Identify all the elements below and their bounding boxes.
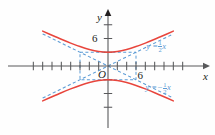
x-axis-label: x xyxy=(203,71,208,82)
equation-fraction: 12 xyxy=(158,40,161,53)
y-axis-label: y xyxy=(97,12,102,23)
equation-sign: − xyxy=(157,83,163,93)
x-axis-arrowhead-icon xyxy=(203,63,210,70)
equation-lhs: y = xyxy=(145,83,157,93)
plot-canvas xyxy=(0,0,215,135)
origin-label: O xyxy=(98,69,106,80)
asymptote-negative-annotation: y =−12x xyxy=(145,82,170,95)
y-axis-tick-label-6: 6 xyxy=(92,33,98,44)
y-axis-arrowhead-icon xyxy=(105,9,112,16)
equation-variable: x xyxy=(167,83,171,93)
equation-fraction: 12 xyxy=(163,82,166,95)
equation-lhs: y = xyxy=(146,41,158,51)
fraction-denominator: 2 xyxy=(158,46,161,53)
fraction-numerator: 1 xyxy=(163,82,166,88)
x-axis-tick-label-6: 6 xyxy=(138,70,144,81)
fraction-denominator: 2 xyxy=(163,88,166,95)
equation-variable: x xyxy=(162,41,166,51)
x-axis xyxy=(8,62,210,70)
hyperbola-graph-figure: y x 6 6 O y =12x y =−12x xyxy=(0,0,215,135)
asymptote-positive-annotation: y =12x xyxy=(146,41,166,54)
